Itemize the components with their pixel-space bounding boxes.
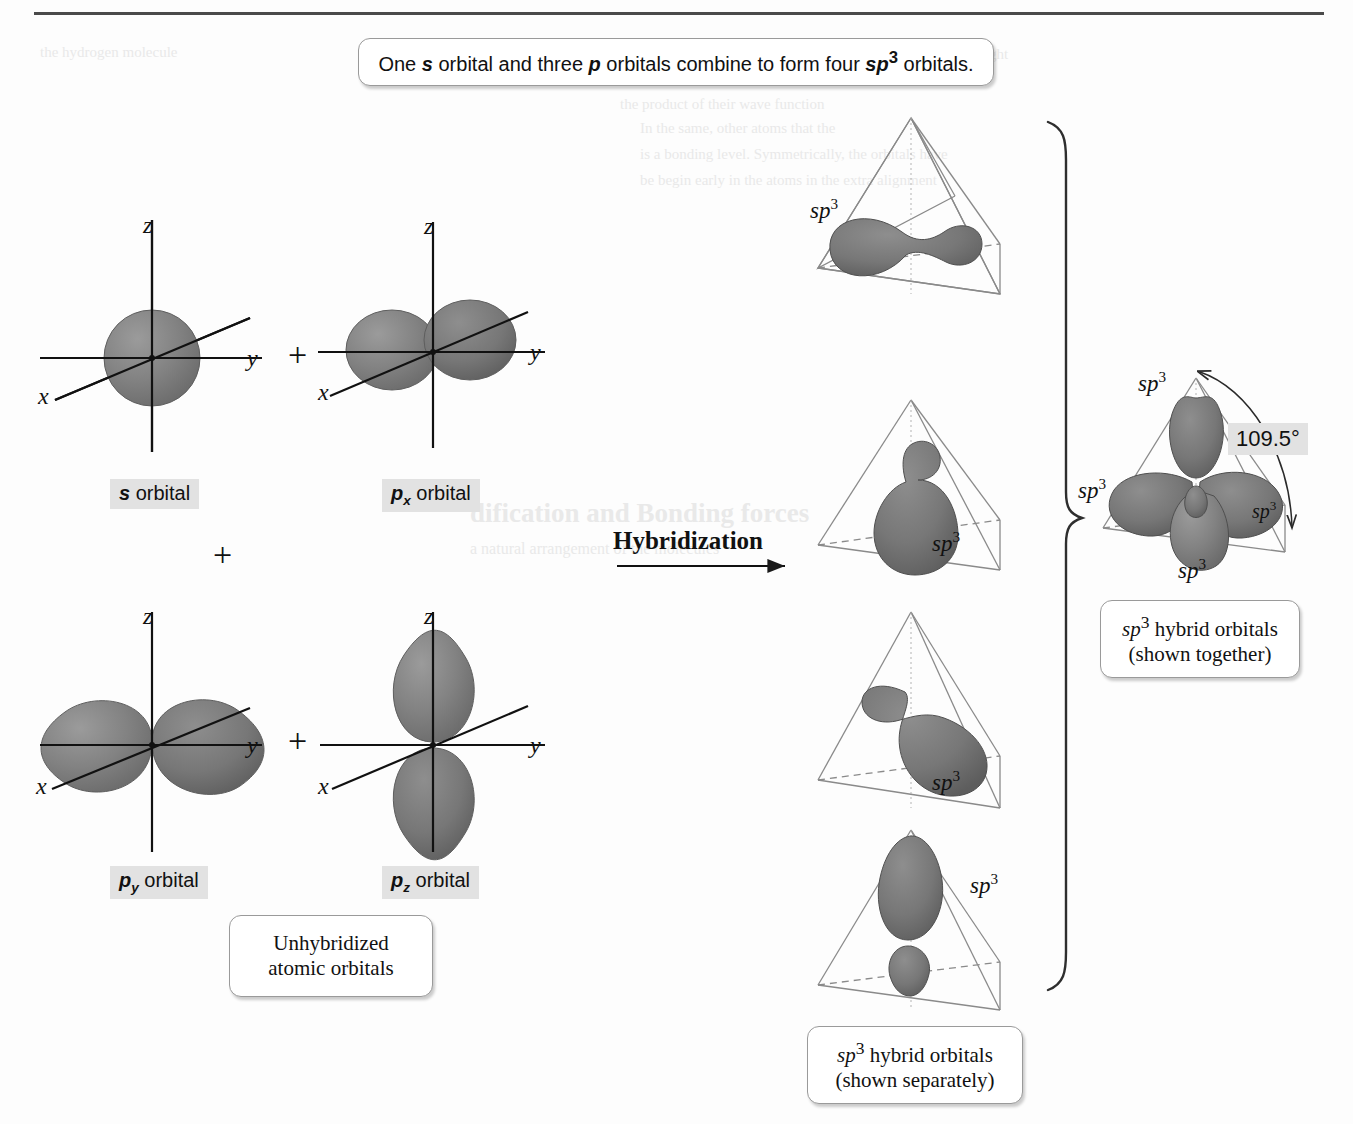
px-orbital-diagram: z y x xyxy=(317,213,545,448)
svg-text:y: y xyxy=(245,732,258,758)
sp3-tag-combined-1: sp3 xyxy=(1138,368,1166,397)
plus-sign-3: + xyxy=(288,722,307,760)
label-pz-orbital: pz orbital xyxy=(382,866,479,899)
hybrid-separate-line-1: sp3 hybrid orbitals xyxy=(837,1038,993,1068)
ghost-text-7: dification and Bonding forces xyxy=(470,498,809,529)
unhybridized-line-2: atomic orbitals xyxy=(268,956,393,981)
hybrid-separate-caption-box: sp3 hybrid orbitals (shown separately) xyxy=(807,1026,1023,1104)
svg-text:x: x xyxy=(317,379,329,405)
svg-text:z: z xyxy=(423,213,434,239)
svg-text:z: z xyxy=(142,603,153,629)
ghost-text-6: be begin early in the atoms in the extra… xyxy=(640,172,937,189)
diagram-art: z y x z y x z y x xyxy=(0,0,1353,1124)
caption-top-text: One s orbital and three p orbitals combi… xyxy=(378,48,973,76)
sp3-tag-tetra-4: sp3 xyxy=(970,870,998,899)
tetrahedron-3 xyxy=(818,612,1000,808)
ghost-text-4: In the same, other atoms that the xyxy=(640,120,835,137)
grouping-brace xyxy=(1048,122,1082,990)
ghost-text-5: is a bonding level. Symmetrically, the o… xyxy=(640,146,948,163)
hybrid-separate-line-2: (shown separately) xyxy=(835,1068,994,1093)
tetrahedron-1 xyxy=(818,118,1000,294)
ghost-text-1: the hydrogen molecule xyxy=(40,44,177,61)
unhybridized-caption-box: Unhybridized atomic orbitals xyxy=(229,915,433,997)
svg-text:x: x xyxy=(37,383,49,409)
hybrid-together-line-2: (shown together) xyxy=(1129,642,1272,667)
svg-text:x: x xyxy=(317,773,329,799)
plus-sign-1: + xyxy=(288,336,307,374)
figure-canvas: the hydrogen molecule of the orbitals co… xyxy=(0,0,1353,1124)
sp3-tag-combined-3: sp3 xyxy=(1178,555,1206,584)
sp3-tag-combined-2: sp3 xyxy=(1078,475,1106,504)
svg-text:x: x xyxy=(35,773,47,799)
combined-orbitals-diagram xyxy=(1103,372,1292,570)
label-s-orbital: s orbital xyxy=(110,479,199,509)
label-py-orbital: py orbital xyxy=(110,866,208,899)
caption-top-box: One s orbital and three p orbitals combi… xyxy=(358,38,994,86)
sp3-tag-tetra-1: sp3 xyxy=(810,195,838,224)
tetrahedron-4 xyxy=(818,830,1000,1010)
hybrid-together-line-1: sp3 hybrid orbitals xyxy=(1122,612,1278,642)
sp3-tag-tetra-3: sp3 xyxy=(932,767,960,796)
tetrahedron-2 xyxy=(818,400,1000,575)
hybridization-label: Hybridization xyxy=(613,527,763,555)
svg-text:z: z xyxy=(423,603,434,629)
svg-text:z: z xyxy=(142,212,153,238)
ghost-text-3: the product of their wave function xyxy=(620,96,825,113)
hybrid-together-caption-box: sp3 hybrid orbitals (shown together) xyxy=(1100,600,1300,678)
s-orbital-diagram: z y x xyxy=(37,212,262,452)
plus-sign-2: + xyxy=(213,536,232,574)
svg-text:y: y xyxy=(528,339,541,365)
label-px-orbital: px orbital xyxy=(382,479,480,512)
unhybridized-line-1: Unhybridized xyxy=(273,931,388,956)
bond-angle-label: 109.5° xyxy=(1228,423,1308,455)
sp3-tag-tetra-2: sp3 xyxy=(932,528,960,557)
svg-text:y: y xyxy=(528,732,541,758)
header-rule xyxy=(34,12,1324,15)
sp3-tag-combined-4: sp3 xyxy=(1252,498,1276,523)
svg-text:y: y xyxy=(245,345,258,371)
pz-orbital-diagram: z y x xyxy=(317,603,545,860)
py-orbital-diagram: z y x xyxy=(35,603,264,852)
